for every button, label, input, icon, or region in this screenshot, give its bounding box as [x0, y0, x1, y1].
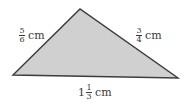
bottom-side-fraction: 1 3	[86, 84, 92, 101]
unit: cm	[145, 29, 162, 42]
whole-number: 1	[78, 86, 85, 99]
right-side-label: 3 4 cm	[136, 27, 162, 44]
unit: cm	[28, 29, 45, 42]
bottom-side-label: 1 1 3 cm	[78, 84, 112, 101]
numerator: 3	[136, 27, 141, 35]
unit: cm	[95, 86, 112, 99]
denominator: 4	[136, 36, 141, 44]
right-side-fraction: 3 4	[136, 27, 142, 44]
numerator: 1	[86, 84, 91, 92]
denominator: 6	[19, 36, 24, 44]
denominator: 3	[86, 93, 91, 101]
left-side-fraction: 5 6	[19, 27, 25, 44]
left-side-label: 5 6 cm	[19, 27, 45, 44]
numerator: 5	[19, 27, 24, 35]
